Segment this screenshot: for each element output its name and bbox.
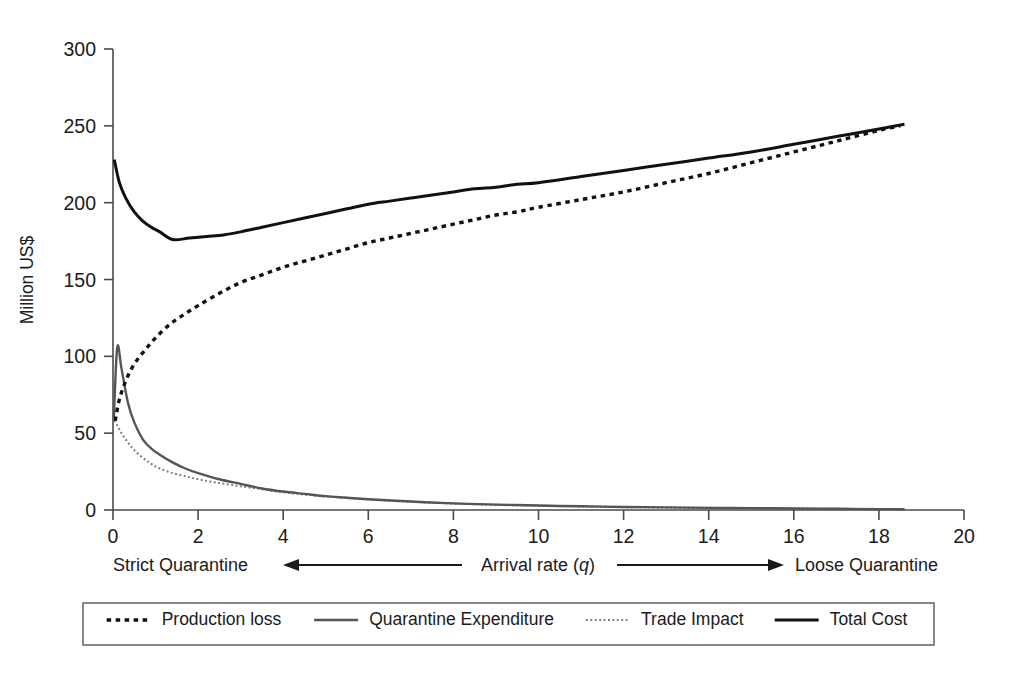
legend-label-3: Trade Impact xyxy=(641,609,744,629)
x-axis-ticks: 02468101214161820 xyxy=(108,510,975,547)
y-tick-label: 50 xyxy=(74,422,96,444)
x-tick-label: 14 xyxy=(698,525,720,547)
arrival-rate-symbol: q xyxy=(579,555,589,575)
y-tick-label: 0 xyxy=(85,499,96,521)
y-tick-label: 300 xyxy=(63,38,96,60)
legend-label-1: Production loss xyxy=(162,609,282,629)
legend-label-2: Quarantine Expenditure xyxy=(369,609,554,629)
series-total-cost xyxy=(114,124,904,240)
series-group xyxy=(114,124,905,509)
x-tick-label: 4 xyxy=(278,525,289,547)
loose-quarantine-label: Loose Quarantine xyxy=(795,555,938,575)
axis-annotations: Strict QuarantineArrival rate (q)Loose Q… xyxy=(113,555,938,575)
y-tick-label: 200 xyxy=(63,192,96,214)
line-chart: 050100150200250300 02468101214161820 Mil… xyxy=(0,0,1011,676)
series-trade-impact xyxy=(114,421,905,509)
y-axis-ticks: 050100150200250300 xyxy=(63,38,113,521)
chart-figure: 050100150200250300 02468101214161820 Mil… xyxy=(0,0,1011,676)
x-tick-label: 6 xyxy=(363,525,374,547)
x-tick-label: 20 xyxy=(953,525,975,547)
y-tick-label: 150 xyxy=(63,269,96,291)
x-tick-label: 12 xyxy=(613,525,635,547)
right-arrow-head xyxy=(768,559,784,571)
arrival-rate-label: Arrival rate (q) xyxy=(481,555,595,575)
arrival-rate-paren: ) xyxy=(589,555,595,575)
y-tick-label: 250 xyxy=(63,115,96,137)
x-tick-label: 0 xyxy=(108,525,119,547)
y-tick-label: 100 xyxy=(63,345,96,367)
x-tick-label: 10 xyxy=(528,525,550,547)
strict-quarantine-label: Strict Quarantine xyxy=(113,555,248,575)
x-tick-label: 16 xyxy=(783,525,805,547)
x-tick-label: 8 xyxy=(448,525,459,547)
series-production-loss xyxy=(115,126,900,421)
x-tick-label: 18 xyxy=(868,525,890,547)
arrival-rate-text: Arrival rate ( xyxy=(481,555,579,575)
x-tick-label: 2 xyxy=(193,525,204,547)
y-axis-title: Million US$ xyxy=(17,235,37,324)
legend-label-4: Total Cost xyxy=(830,609,908,629)
left-arrow-head xyxy=(283,559,299,571)
